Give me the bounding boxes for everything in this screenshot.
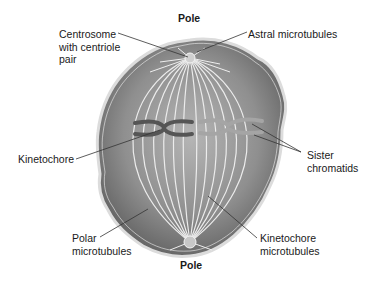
- centrosome-label: Centrosome with centriole pair: [59, 28, 120, 66]
- kinetochore-microtubules-label: Kinetochore microtubules: [260, 232, 320, 257]
- centrosome-top: [185, 53, 195, 63]
- polar-microtubules-label: Polar microtubules: [72, 232, 132, 257]
- spindle-diagram: Pole Centrosome with centriole pair Astr…: [0, 0, 365, 281]
- centrosome-bottom: [184, 236, 196, 248]
- pole-bottom-label: Pole: [180, 259, 202, 272]
- kinetochore-label: Kinetochore: [18, 153, 74, 166]
- astral-microtubules-label: Astral microtubules: [248, 28, 337, 41]
- pole-top-label: Pole: [178, 12, 200, 25]
- sister-chromatids-label: Sister chromatids: [307, 149, 358, 174]
